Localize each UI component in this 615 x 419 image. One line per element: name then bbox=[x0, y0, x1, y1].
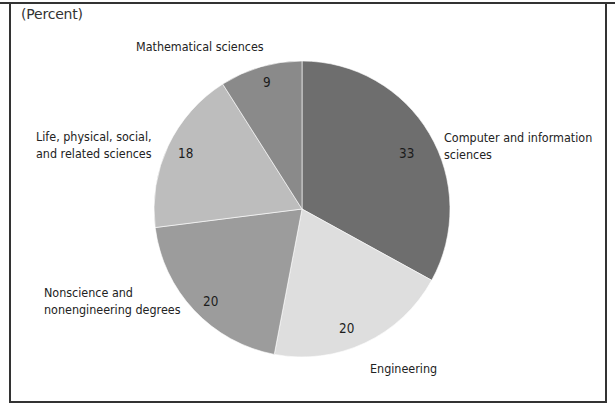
value-mathematical-sciences: 9 bbox=[263, 74, 271, 90]
value-life-physical: 18 bbox=[178, 145, 193, 161]
value-nonscience: 20 bbox=[203, 293, 218, 309]
label-computer-info-line2: sciences bbox=[444, 147, 492, 163]
value-computer-info: 33 bbox=[399, 145, 414, 161]
label-nonscience-line2: nonengineering degrees bbox=[44, 302, 180, 318]
label-engineering: Engineering bbox=[370, 361, 437, 377]
pie-chart bbox=[0, 0, 615, 419]
label-life-physical-line1: Life, physical, social, bbox=[36, 129, 152, 145]
label-computer-info-line1: Computer and information bbox=[444, 130, 592, 146]
value-engineering: 20 bbox=[339, 320, 354, 336]
label-life-physical-line2: and related sciences bbox=[36, 146, 152, 162]
label-nonscience-line1: Nonscience and bbox=[44, 285, 133, 301]
label-mathematical-sciences: Mathematical sciences bbox=[136, 39, 264, 55]
